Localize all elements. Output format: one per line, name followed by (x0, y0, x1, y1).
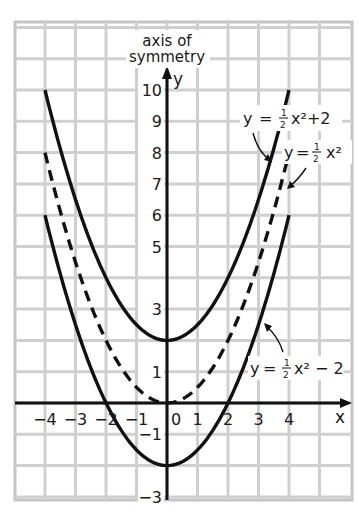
label-tail: x² − 2 (294, 359, 344, 378)
label-base: y = 1 2 x² (282, 140, 352, 189)
y-tick-label: 3 (152, 300, 162, 319)
y-tick-label: 8 (152, 144, 162, 163)
label-y: y (243, 109, 252, 128)
x-tick-label: 4 (284, 410, 294, 429)
axis-of-symmetry-line2: symmetry (129, 48, 205, 66)
label-num: 1 (284, 358, 290, 368)
label-den: 2 (283, 370, 289, 380)
label-tail: x² (326, 143, 342, 162)
parabola-chart: −4−3−2−101234109876531−1−3 x y axis of s… (0, 0, 359, 518)
x-tick-label: 2 (223, 410, 233, 429)
y-tick-label: −3 (138, 488, 162, 507)
label-den: 2 (313, 154, 319, 164)
label-den: 2 (280, 120, 286, 130)
y-tick-label: −1 (138, 425, 162, 444)
label-num: 1 (281, 108, 287, 118)
label-minus-2: y = 1 2 x² − 2 (248, 323, 344, 380)
x-tick-label: 0 (171, 410, 181, 429)
y-tick-label: 7 (152, 175, 162, 194)
y-tick-label: 1 (152, 363, 162, 382)
y-tick-label: 10 (142, 81, 162, 100)
y-axis-label: y (173, 69, 183, 89)
label-eq: = (296, 143, 309, 162)
label-tail: x²+2 (291, 109, 330, 128)
y-tick-label: 5 (152, 238, 162, 257)
x-tick-label: −2 (94, 410, 118, 429)
label-y: y (250, 359, 259, 378)
label-y: y (284, 143, 293, 162)
x-tick-label: −3 (64, 410, 88, 429)
tick-labels: −4−3−2−101234109876531−1−3 (33, 81, 294, 507)
label-eq: = (263, 359, 276, 378)
x-tick-label: 1 (192, 410, 202, 429)
x-axis-label: x (335, 407, 345, 427)
x-tick-label: 3 (253, 410, 263, 429)
label-eq: = (259, 109, 272, 128)
y-tick-label: 9 (152, 112, 162, 131)
label-num: 1 (314, 142, 320, 152)
x-tick-label: −4 (33, 410, 57, 429)
y-tick-label: 6 (152, 206, 162, 225)
